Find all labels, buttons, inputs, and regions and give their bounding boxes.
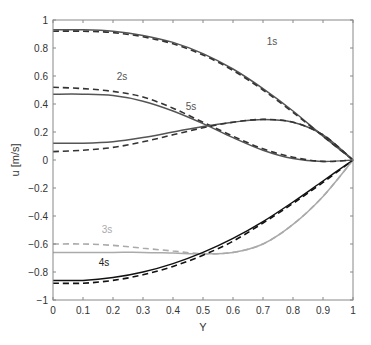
- y-tick-label: 0.8: [34, 43, 48, 54]
- y-tick-label: −0.2: [28, 183, 48, 194]
- line-chart: 00.10.20.30.40.50.60.70.80.9110.80.60.40…: [0, 0, 371, 345]
- x-tick-label: 0.2: [106, 305, 120, 316]
- series-line: [53, 119, 353, 160]
- series-line: [53, 119, 353, 160]
- x-tick-label: 0.1: [76, 305, 90, 316]
- y-tick-label: −0.4: [28, 211, 48, 222]
- x-tick-label: 0.4: [166, 305, 180, 316]
- series-line: [53, 160, 353, 254]
- x-tick-label: 0.7: [256, 305, 270, 316]
- y-tick-label: 0: [42, 155, 48, 166]
- x-tick-label: 0: [50, 305, 56, 316]
- series-annotation: 1s: [267, 36, 278, 47]
- annotations: 1s2s5s3s4s: [99, 36, 278, 268]
- x-tick-label: 0.3: [136, 305, 150, 316]
- series-annotation: 5s: [186, 101, 197, 112]
- series-line: [53, 31, 353, 160]
- axis-ticks: 00.10.20.30.40.50.60.70.80.9110.80.60.40…: [28, 15, 356, 317]
- y-axis-label: u [m/s]: [9, 143, 21, 176]
- x-tick-label: 0.9: [316, 305, 330, 316]
- y-tick-label: 0.4: [34, 99, 48, 110]
- series-layer: [53, 30, 353, 284]
- x-tick-label: 0.8: [286, 305, 300, 316]
- series-annotation: 2s: [117, 71, 128, 82]
- y-tick-label: 0.6: [34, 71, 48, 82]
- y-tick-label: −0.8: [28, 267, 48, 278]
- x-tick-label: 1: [350, 305, 356, 316]
- x-tick-label: 0.5: [196, 305, 210, 316]
- x-tick-label: 0.6: [226, 305, 240, 316]
- y-tick-label: −1: [37, 295, 49, 306]
- series-annotation: 4s: [99, 257, 110, 268]
- y-tick-label: 0.2: [34, 127, 48, 138]
- series-line: [53, 160, 353, 254]
- series-annotation: 3s: [102, 224, 113, 235]
- y-tick-label: −0.6: [28, 239, 48, 250]
- y-tick-label: 1: [42, 15, 48, 26]
- x-axis-label: Y: [199, 321, 207, 333]
